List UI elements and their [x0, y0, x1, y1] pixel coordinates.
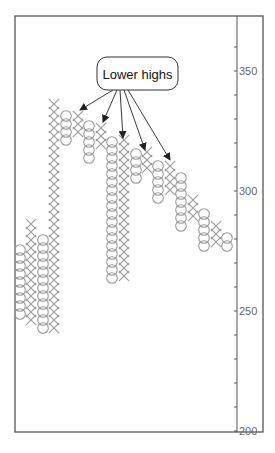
o-mark — [84, 153, 95, 164]
callout-label: Lower highs — [102, 67, 173, 82]
axis-tick-label: 300 — [239, 185, 257, 197]
x-column — [73, 111, 83, 137]
price-axis: 350300250200 — [234, 16, 257, 437]
axis-tick-label: 350 — [239, 65, 257, 77]
x-column — [26, 219, 36, 325]
arrow-icon — [124, 90, 145, 150]
x-column — [49, 99, 59, 333]
o-column — [84, 121, 95, 164]
o-mark — [15, 309, 26, 320]
o-column — [131, 149, 142, 184]
x-column — [188, 195, 198, 221]
o-column — [176, 173, 187, 232]
o-mark — [153, 193, 164, 204]
x-column — [211, 221, 221, 247]
axis-tick-label: 200 — [239, 425, 257, 437]
x-column — [119, 135, 129, 281]
o-column — [38, 235, 49, 334]
o-column — [153, 161, 164, 204]
o-mark — [107, 273, 118, 284]
axis-tick-label: 250 — [239, 305, 257, 317]
o-column — [15, 245, 26, 320]
o-column — [61, 111, 72, 146]
o-mark — [61, 135, 72, 146]
point-and-figure-chart: 350300250200 Lower highs — [0, 0, 275, 453]
o-column — [222, 233, 233, 252]
arrow-icon — [120, 90, 123, 138]
o-mark — [222, 241, 233, 252]
o-mark — [176, 221, 187, 232]
o-mark — [131, 173, 142, 184]
x-column — [96, 123, 106, 149]
o-column — [107, 137, 118, 284]
pf-columns — [15, 99, 233, 334]
arrow-icon — [80, 90, 113, 110]
o-mark — [38, 323, 49, 334]
o-column — [199, 209, 210, 252]
x-column — [142, 147, 152, 173]
lower-highs-callout: Lower highs — [97, 57, 178, 90]
o-mark — [199, 241, 210, 252]
x-column — [165, 161, 175, 195]
